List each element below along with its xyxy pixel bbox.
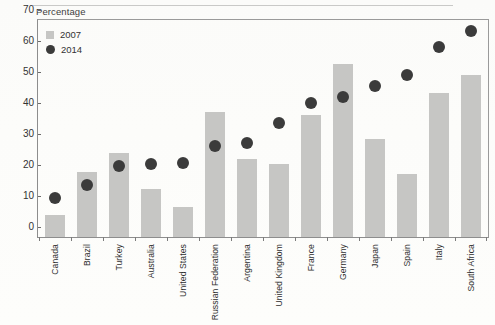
x-axis-tick-mark (391, 237, 392, 241)
y-axis-tick-label: 10 (23, 191, 38, 201)
y-axis-tick-label: 0 (28, 222, 38, 232)
chart-plot-area: 010203040506070 CanadaBrazilTurkeyAustra… (37, 19, 489, 238)
bar-2007 (301, 115, 321, 237)
x-axis-tick-mark (199, 237, 200, 241)
dot-2014 (241, 137, 253, 149)
x-axis-category-label: Germany (338, 244, 348, 280)
dot-2014 (49, 192, 61, 204)
dot-2014 (177, 157, 189, 169)
bar-2007 (173, 207, 193, 237)
dot-2014 (209, 140, 221, 152)
bar-2007 (461, 75, 481, 237)
x-axis-tick-mark (103, 237, 104, 241)
horizontal-rule (33, 5, 453, 6)
chart-category-column: Argentina (231, 20, 263, 237)
x-axis-category-label: Canada (50, 244, 60, 275)
bar-2007 (205, 112, 225, 237)
chart-category-column: Turkey (103, 20, 135, 237)
y-axis-tick-label: 30 (23, 129, 38, 139)
x-axis-category-label: South Africa (466, 244, 476, 292)
dot-2014 (113, 160, 125, 172)
chart-legend: 2007 2014 (46, 27, 82, 57)
legend-label-2014: 2014 (61, 42, 82, 57)
x-axis-tick-mark (167, 237, 168, 241)
x-axis-tick-mark (455, 237, 456, 241)
y-axis-tick-label: 70 (23, 5, 38, 15)
y-axis-tick-mark (38, 10, 41, 11)
x-axis-tick-mark (486, 237, 487, 241)
chart-category-column: Japan (359, 20, 391, 237)
chart-category-column: United Kingdom (263, 20, 295, 237)
chart-category-column: Russian Federation (199, 20, 231, 237)
chart-category-column: United States (167, 20, 199, 237)
dot-2014 (401, 69, 413, 81)
x-axis-tick-mark (295, 237, 296, 241)
x-axis-category-label: Brazil (82, 244, 92, 266)
x-axis-tick-mark (39, 237, 40, 241)
legend-item-2007: 2007 (46, 27, 82, 42)
bar-2007 (269, 164, 289, 237)
x-axis-category-label: Japan (370, 244, 380, 268)
x-axis-tick-mark (327, 237, 328, 241)
bar-2007 (141, 189, 161, 237)
chart-category-column: South Africa (455, 20, 487, 237)
x-axis-category-label: Spain (402, 244, 412, 266)
x-axis-category-label: France (306, 244, 316, 271)
dot-2014 (465, 25, 477, 37)
x-axis-tick-mark (359, 237, 360, 241)
legend-swatch-dot-icon (46, 45, 55, 54)
dot-2014 (305, 97, 317, 109)
x-axis-category-label: Turkey (114, 244, 124, 271)
y-axis-title: Percentage (36, 6, 86, 17)
x-axis-category-label: Australia (146, 244, 156, 278)
chart-category-column: Spain (391, 20, 423, 237)
x-axis-category-label: United Kingdom (274, 244, 284, 307)
chart-category-column: Italy (423, 20, 455, 237)
dot-2014 (337, 91, 349, 103)
x-axis-category-label: Argentina (242, 244, 252, 282)
dot-2014 (433, 41, 445, 53)
legend-swatch-bar-icon (46, 31, 54, 39)
dot-2014 (145, 158, 157, 170)
chart-category-column: Germany (327, 20, 359, 237)
dot-2014 (273, 117, 285, 129)
bar-2007 (237, 159, 257, 237)
x-axis-category-label: United States (178, 244, 188, 297)
x-axis-category-label: Italy (434, 244, 444, 260)
chart-category-column: France (295, 20, 327, 237)
bar-2007 (397, 174, 417, 237)
bar-2007 (365, 139, 385, 237)
y-axis-tick-label: 50 (23, 67, 38, 77)
x-axis-tick-mark (71, 237, 72, 241)
legend-item-2014: 2014 (46, 42, 82, 57)
x-axis-tick-mark (263, 237, 264, 241)
y-axis-tick-label: 60 (23, 36, 38, 46)
x-axis-tick-mark (423, 237, 424, 241)
dot-2014 (369, 80, 381, 92)
legend-label-2007: 2007 (60, 27, 81, 42)
bar-2007 (45, 215, 65, 237)
y-axis-tick-label: 20 (23, 160, 38, 170)
x-axis-category-label: Russian Federation (210, 244, 220, 320)
bar-2007 (429, 93, 449, 237)
dot-2014 (81, 179, 93, 191)
x-axis-tick-mark (231, 237, 232, 241)
x-axis-tick-mark (135, 237, 136, 241)
scanned-page-background: Percentage 010203040506070 CanadaBrazilT… (0, 0, 495, 325)
y-axis-tick-label: 40 (23, 98, 38, 108)
chart-series-group: CanadaBrazilTurkeyAustraliaUnited States… (38, 20, 488, 237)
chart-category-column: Australia (135, 20, 167, 237)
